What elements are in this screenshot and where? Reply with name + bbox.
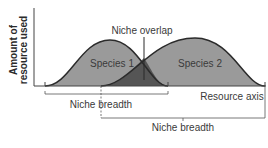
y-axis-label-line2: resource used [18, 16, 29, 84]
resource-axis-label: Resource axis [200, 91, 263, 102]
niche-breadth-label-2: Niche breadth [152, 122, 214, 133]
niche-overlap-label: Niche overlap [111, 25, 173, 36]
niche-breadth-label-1: Niche breadth [70, 99, 132, 110]
species-1-label: Species 1 [90, 58, 134, 69]
niche-diagram: Amount of resource used Niche overlap Sp… [0, 0, 268, 148]
species-2-label: Species 2 [178, 58, 222, 69]
niche-breadth-bracket-1 [45, 91, 168, 94]
